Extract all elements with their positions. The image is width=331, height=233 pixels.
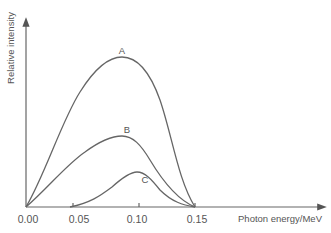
curve-c bbox=[70, 172, 195, 207]
y-axis-label: Relative intensity bbox=[5, 12, 16, 84]
x-tick-label: 0.10 bbox=[127, 213, 148, 225]
curve-label-b: B bbox=[124, 124, 130, 135]
x-tick-label: 0.05 bbox=[69, 213, 90, 225]
x-tick-label: 0.00 bbox=[18, 213, 39, 225]
x-tick-label: 0.15 bbox=[187, 213, 208, 225]
chart: 0.00 0.05 0.10 0.15 Photon energy/MeV Re… bbox=[0, 0, 331, 233]
x-axis-label: Photon energy/MeV bbox=[238, 213, 323, 224]
curve-label-a: A bbox=[119, 45, 126, 56]
curve-label-c: C bbox=[142, 174, 149, 185]
curve-a bbox=[26, 57, 195, 207]
curve-b bbox=[26, 136, 195, 207]
